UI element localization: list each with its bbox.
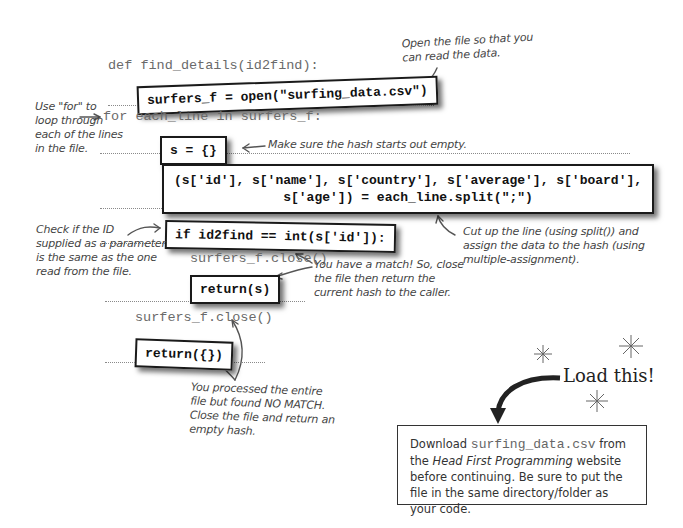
note-match: You have a match! So, close the file the… [314,258,464,300]
split-code-line1: (s['id'], s['name'], s['country'], s['av… [174,173,642,188]
if-id-code: if id2find == int(s['id']): [165,220,396,253]
return-s-code: return(s) [190,275,280,304]
note-hash-empty: Make sure the hash starts out empty. [268,138,467,152]
close-inner-line: surfers_f.close() [190,251,328,266]
load-this-heading: Load this! [563,365,655,386]
note-use-for: Use "for" to loop through each of the li… [35,100,123,156]
hash-init-code: s = {} [160,136,227,165]
filename: surfing_data.csv [471,437,596,452]
note-check-id: Check if the ID supplied as a parameter … [36,223,166,279]
for-line: for each_line in surfers_f: [103,109,322,124]
return-empty-code: return({}) [135,338,234,370]
book-title: Head First Programming [433,454,573,468]
split-code: (s['id'], s['name'], s['country'], s['av… [162,164,654,214]
def-line: def find_details(id2find): [108,58,319,73]
note-no-match: You processed the entire file but found … [189,380,336,441]
note-cut-line: Cut up the line (using split()) and assi… [463,225,645,267]
close-outer-line: surfers_f.close() [135,310,273,325]
split-code-line2: s['age']) = each_line.split(";") [174,190,533,205]
download-callout: Download surfing_data.csv from the Head … [397,425,647,505]
